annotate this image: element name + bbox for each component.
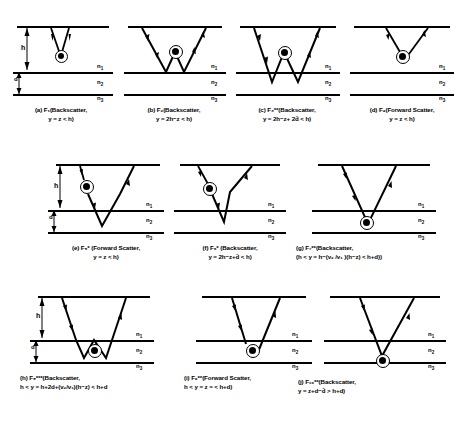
scatterer-core xyxy=(58,53,64,59)
panel-j-caption-line2: y = z+d−d̃ > h+d) xyxy=(298,387,461,396)
height-label-h: h xyxy=(21,44,25,51)
panel-a-caption: (a) F₁(Backscatter, y = z < h) xyxy=(5,106,117,123)
panel-d-caption: (d) F₄(Forward Scatter, y = z < h) xyxy=(340,106,461,123)
panel-f-caption-line2: y = 2h−z+d̃ < h) xyxy=(162,253,298,262)
layer-label-n2: n2 xyxy=(146,217,152,225)
height-label-h: h xyxy=(54,182,58,189)
depth-label-d: d xyxy=(49,214,53,220)
panel-e-diagram: h d n1 n2 n3 xyxy=(42,148,170,240)
panel-j-caption: (j) F₁₀**(Backscatter, y = z+d−d̃ > h+d) xyxy=(294,378,461,395)
panel-h-caption-line1: (h) F₈***(Backscatter, xyxy=(20,374,80,381)
layer-label-n1: n1 xyxy=(292,331,298,339)
panel-e-caption-line1: (e) F₅* (Forward Scatter, xyxy=(72,244,140,251)
panel-g-diagram: n1 n2 n3 xyxy=(292,148,460,240)
scatterer-core xyxy=(83,183,90,190)
layer-label-n3: n3 xyxy=(211,95,217,103)
layer-label-n1: n1 xyxy=(97,63,103,71)
panel-f-caption: (f) F₆* (Backscatter, y = 2h−z+d̃ < h) xyxy=(162,244,298,261)
layer-label-n2: n2 xyxy=(428,347,434,355)
layer-label-n3: n3 xyxy=(325,95,331,103)
panel-f: n1 n2 n3 (f) F₆* (Backscatter, y = 2h−z+… xyxy=(168,148,292,268)
panel-d-diagram: n1 n2 n3 xyxy=(344,8,460,100)
panel-b-diagram: n1 n2 n3 xyxy=(118,8,230,100)
panel-j-ray-paths xyxy=(320,282,460,380)
layer-label-n3: n3 xyxy=(97,95,103,103)
panel-d-caption-line1: (d) F₄(Forward Scatter, xyxy=(370,106,435,113)
depth-label-d: d xyxy=(14,76,18,82)
layer-label-n1: n1 xyxy=(211,63,217,71)
scatterer-core xyxy=(206,185,213,192)
panel-g-ray-paths xyxy=(292,148,460,240)
panel-d-caption-line2: y = z < h) xyxy=(340,115,461,124)
panel-h: h d n1 n2 n3 (h) F₈***(Backscatter, h < … xyxy=(18,282,186,402)
layer-label-n1: n1 xyxy=(268,201,274,209)
figure-container: h d n1 n2 n3 (a) F₁(Backscatter, y = z <… xyxy=(0,0,461,433)
panel-i-ray-paths xyxy=(188,282,318,372)
panel-c: n1 n2 n3 (c) F₃**(Backscatter, y = 2h−z+… xyxy=(228,8,346,128)
panel-a-caption-line2: y = z < h) xyxy=(5,115,117,124)
panel-e-ray-paths xyxy=(42,148,170,240)
panel-d: n1 n2 n3 (d) F₄(Forward Scatter, y = z <… xyxy=(344,8,460,128)
scatterer-core xyxy=(172,48,179,55)
panel-b-caption-line2: y = 2h−z < h) xyxy=(118,115,230,124)
panel-g-caption-line2: (h < y = h−(v₂ /v₁ )(h−z) < h+d)) xyxy=(296,253,461,262)
layer-label-n2: n2 xyxy=(439,79,445,87)
scatterer-core xyxy=(91,347,98,354)
layer-label-n2: n2 xyxy=(268,217,274,225)
layer-label-n2: n2 xyxy=(418,217,424,225)
panel-a-caption-line1: (a) F₁(Backscatter, xyxy=(35,106,87,113)
layer-label-n3: n3 xyxy=(146,233,152,241)
panel-j-diagram: n1 n2 n3 xyxy=(320,282,460,380)
layer-label-n2: n2 xyxy=(292,347,298,355)
panel-i-caption-line1: (i) F₉**(Forward Scatter, xyxy=(184,374,251,381)
layer-label-n2: n2 xyxy=(325,79,331,87)
layer-label-n1: n1 xyxy=(439,63,445,71)
scatterer-core xyxy=(281,49,288,56)
layer-label-n2: n2 xyxy=(136,347,142,355)
panel-b: n1 n2 n3 (b) F₂(Backscatter, y = 2h−z < … xyxy=(118,8,230,128)
panel-c-caption-line1: (c) F₃**(Backscatter, xyxy=(258,106,315,113)
panel-e-caption: (e) F₅* (Forward Scatter, y = z < h) xyxy=(34,244,178,261)
panel-g-caption: (g) F₇**(Backscatter, (h < y = h−(v₂ /v₁… xyxy=(292,244,461,261)
panel-j: n1 n2 n3 (j) F₁₀**(Backscatter, y = z+d−… xyxy=(320,282,460,402)
layer-label-n3: n3 xyxy=(268,233,274,241)
panel-c-caption-line2: y = 2h−z+ 2d̃ < h) xyxy=(226,115,348,124)
panel-e: h d n1 n2 n3 (e) F₅* (Forward Scatter, y… xyxy=(42,148,170,268)
panel-g: n1 n2 n3 (g) F₇**(Backscatter, (h < y = … xyxy=(292,148,460,268)
panel-b-caption-line1: (b) F₂(Backscatter, xyxy=(148,106,201,113)
panel-a-diagram: h d n1 n2 n3 xyxy=(5,8,117,100)
panel-j-caption-line1: (j) F₁₀**(Backscatter, xyxy=(298,378,356,385)
height-label-h: h xyxy=(36,312,40,319)
scatterer-core xyxy=(399,53,406,60)
layer-label-n1: n1 xyxy=(418,201,424,209)
panel-h-diagram: h d n1 n2 n3 xyxy=(18,282,186,372)
layer-label-n3: n3 xyxy=(428,363,434,371)
panel-c-caption: (c) F₃**(Backscatter, y = 2h−z+ 2d̃ < h) xyxy=(226,106,348,123)
panel-h-ray-paths xyxy=(18,282,186,372)
panel-f-ray-paths xyxy=(168,148,292,240)
layer-label-n3: n3 xyxy=(418,233,424,241)
panel-e-caption-line2: y = z < h) xyxy=(34,253,178,262)
layer-label-n1: n1 xyxy=(428,331,434,339)
layer-label-n3: n3 xyxy=(439,95,445,103)
scatterer-core xyxy=(363,219,370,226)
panel-b-caption: (b) F₂(Backscatter, y = 2h−z < h) xyxy=(118,106,230,123)
scatterer-core xyxy=(249,347,256,354)
depth-label-d: d xyxy=(31,344,35,350)
panel-c-diagram: n1 n2 n3 xyxy=(228,8,346,100)
layer-label-n1: n1 xyxy=(136,331,142,339)
layer-label-n1: n1 xyxy=(325,63,331,71)
panel-i-diagram: n1 n2 n3 xyxy=(188,282,318,372)
scatterer-core xyxy=(379,357,386,364)
panel-h-caption: (h) F₈***(Backscatter, h < y = h+2d+(v₂/… xyxy=(18,374,196,391)
layer-label-n2: n2 xyxy=(211,79,217,87)
panel-f-caption-line1: (f) F₆* (Backscatter, xyxy=(202,244,257,251)
layer-label-n3: n3 xyxy=(292,363,298,371)
panel-h-caption-line2: h < y = h+2d+(v₂/v₁)(h−z) < h+d xyxy=(20,383,196,392)
panel-g-caption-line1: (g) F₇**(Backscatter, xyxy=(296,244,353,251)
layer-label-n3: n3 xyxy=(136,363,142,371)
panel-a: h d n1 n2 n3 (a) F₁(Backscatter, y = z <… xyxy=(5,8,117,128)
layer-label-n1: n1 xyxy=(146,201,152,209)
layer-label-n2: n2 xyxy=(97,79,103,87)
panel-f-diagram: n1 n2 n3 xyxy=(168,148,292,240)
